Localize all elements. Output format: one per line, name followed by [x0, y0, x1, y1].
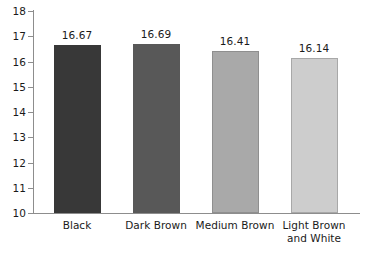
y-axis-tick-label: 14 — [2, 107, 26, 118]
bar — [291, 58, 338, 213]
bar — [54, 45, 101, 213]
x-axis-category-label-line: Medium Brown — [190, 219, 280, 232]
y-axis-tick-label: 15 — [2, 82, 26, 93]
x-axis-category-label: Black — [32, 219, 122, 232]
bar — [212, 51, 259, 213]
bar-value-label: 16.14 — [284, 43, 344, 54]
y-axis-tick-label: 12 — [2, 158, 26, 169]
y-axis-tick-label: 17 — [2, 31, 26, 42]
y-axis-tick-label: 13 — [2, 132, 26, 143]
x-axis-category-label: Dark Brown — [111, 219, 201, 232]
y-axis-tick-label: 18 — [2, 6, 26, 17]
x-axis-category-label-line: Light Brown — [269, 219, 359, 232]
x-axis-category-label-line: Dark Brown — [111, 219, 201, 232]
x-axis-category-label-line: and White — [269, 232, 359, 245]
bar — [133, 44, 180, 213]
bar-chart: 101112131415161718 16.6716.6916.4116.14 … — [0, 0, 371, 253]
bar-value-label: 16.67 — [47, 30, 107, 41]
bar-value-label: 16.69 — [126, 29, 186, 40]
y-axis-tick-label: 11 — [2, 183, 26, 194]
bar-value-label: 16.41 — [205, 36, 265, 47]
y-axis-tick-label: 10 — [2, 208, 26, 219]
x-axis-line — [33, 213, 360, 214]
x-axis-category-label: Medium Brown — [190, 219, 280, 232]
x-axis-category-label-line: Black — [32, 219, 122, 232]
y-axis-tick-label: 16 — [2, 57, 26, 68]
x-axis-category-label: Light Brownand White — [269, 219, 359, 244]
